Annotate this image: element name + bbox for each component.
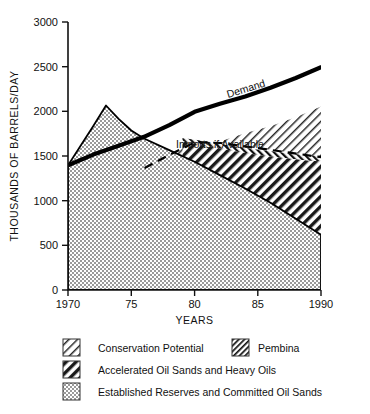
- chart-svg: Demand Imports if Available 0 500 1000 1…: [0, 0, 370, 414]
- y-axis-ticks: [62, 22, 68, 290]
- legend-swatch-accelerated-oil-sands: [63, 361, 80, 378]
- chart-legend: Conservation Potential Pembina Accelerat…: [63, 339, 322, 400]
- legend-label-conservation-potential: Conservation Potential: [98, 342, 204, 354]
- x-axis-ticks: [68, 290, 321, 296]
- imports-if-available-label: Imports if Available: [176, 138, 264, 150]
- y-tick-1500: 1500: [34, 150, 58, 162]
- legend-label-accelerated-oil-sands: Accelerated Oil Sands and Heavy Oils: [98, 364, 276, 376]
- x-tick-1990: 1990: [309, 298, 333, 310]
- x-axis-tick-labels: 1970 75 80 85 1990: [56, 298, 333, 310]
- legend-label-pembina: Pembina: [258, 342, 300, 354]
- legend-swatch-pembina: [232, 339, 249, 356]
- y-tick-3000: 3000: [34, 16, 58, 28]
- y-axis-tick-labels: 0 500 1000 1500 2000 2500 3000: [34, 16, 58, 296]
- y-tick-2500: 2500: [34, 61, 58, 73]
- x-tick-80: 80: [188, 298, 200, 310]
- legend-label-established-reserves: Established Reserves and Committed Oil S…: [98, 386, 322, 398]
- x-tick-1970: 1970: [56, 298, 80, 310]
- y-tick-2000: 2000: [34, 105, 58, 117]
- y-tick-1000: 1000: [34, 195, 58, 207]
- energy-supply-demand-chart: Demand Imports if Available 0 500 1000 1…: [0, 0, 370, 414]
- x-tick-75: 75: [125, 298, 137, 310]
- y-tick-500: 500: [40, 239, 58, 251]
- x-axis-title: YEARS: [176, 314, 214, 326]
- legend-swatch-established-reserves: [63, 383, 80, 400]
- y-axis-title: THOUSANDS OF BARRELS/DAY: [8, 70, 20, 241]
- x-tick-85: 85: [252, 298, 264, 310]
- y-tick-0: 0: [52, 284, 58, 296]
- legend-swatch-conservation-potential: [63, 339, 80, 356]
- plot-area: Demand Imports if Available: [68, 67, 321, 290]
